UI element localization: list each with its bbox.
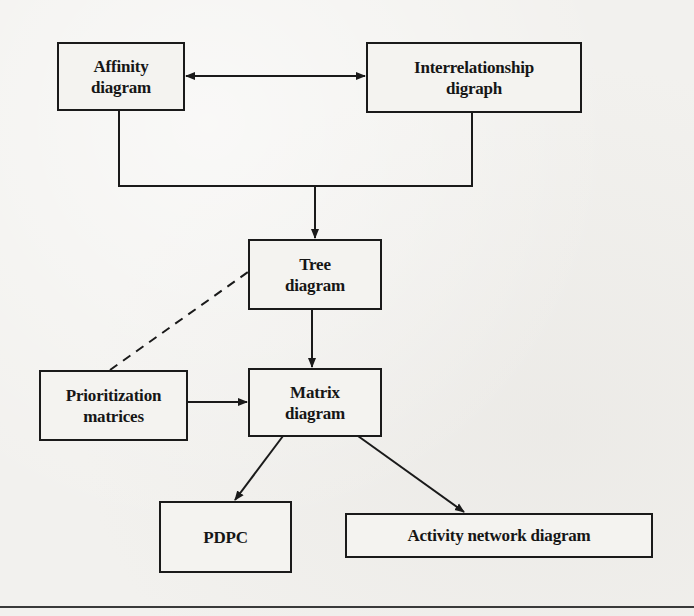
node-label: Affinity diagram bbox=[91, 56, 151, 98]
node-label: Activity network diagram bbox=[407, 525, 590, 546]
node-activity-network-diagram: Activity network diagram bbox=[345, 513, 653, 558]
node-pdpc: PDPC bbox=[159, 501, 292, 573]
edge-prioritization-tree-dashed bbox=[110, 272, 248, 370]
node-tree-diagram: Tree diagram bbox=[248, 239, 382, 310]
page-bottom-rule bbox=[0, 606, 694, 608]
node-matrix-diagram: Matrix diagram bbox=[248, 368, 382, 437]
node-interrelationship-digraph: Interrelationship digraph bbox=[366, 42, 582, 113]
edge-matrix-pdpc bbox=[235, 436, 283, 500]
node-label: Interrelationship digraph bbox=[414, 57, 534, 99]
node-prioritization-matrices: Prioritization matrices bbox=[39, 370, 188, 441]
node-affinity-diagram: Affinity diagram bbox=[57, 42, 185, 111]
node-label: Matrix diagram bbox=[285, 382, 345, 424]
node-label: Tree diagram bbox=[285, 254, 345, 296]
edge-top-bracket bbox=[119, 110, 472, 186]
node-label: PDPC bbox=[203, 527, 248, 548]
edge-matrix-activity bbox=[358, 436, 464, 512]
node-label: Prioritization matrices bbox=[66, 385, 161, 427]
